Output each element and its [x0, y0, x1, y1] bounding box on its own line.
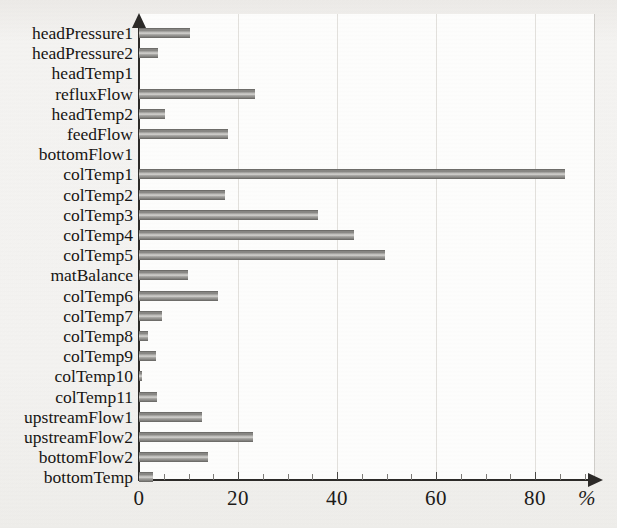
y-label-headPressure1: headPressure1 — [0, 25, 133, 43]
bar-colTemp1 — [139, 169, 565, 179]
y-label-bottomFlow2: bottomFlow2 — [0, 449, 133, 467]
bar-colTemp10 — [139, 371, 142, 381]
y-label-colTemp10: colTemp10 — [0, 368, 133, 386]
y-label-bottomTemp: bottomTemp — [0, 469, 133, 487]
y-label-colTemp3: colTemp3 — [0, 207, 133, 225]
bar-upstreamFlow1 — [139, 412, 202, 422]
tick-minor-85 — [560, 474, 561, 480]
tick-minor-70 — [486, 474, 487, 480]
tick-minor-50 — [387, 474, 388, 480]
tick-minor-25 — [263, 474, 264, 480]
bar-colTemp3 — [139, 210, 318, 220]
bar-refluxFlow — [139, 89, 255, 99]
tick-minor-55 — [411, 474, 412, 480]
x-tick-label-40: 40 — [307, 486, 367, 511]
y-label-headTemp1: headTemp1 — [0, 65, 133, 83]
y-label-headPressure2: headPressure2 — [0, 45, 133, 63]
bar-colTemp7 — [139, 311, 162, 321]
tick-major-60 — [436, 472, 437, 480]
tick-minor-65 — [461, 474, 462, 480]
y-label-upstreamFlow2: upstreamFlow2 — [0, 429, 133, 447]
x-tick-label-60: 60 — [406, 486, 466, 511]
tick-major-80 — [535, 472, 536, 480]
bar-headTemp2 — [139, 109, 165, 119]
y-label-colTemp5: colTemp5 — [0, 247, 133, 265]
y-label-colTemp9: colTemp9 — [0, 348, 133, 366]
bar-colTemp4 — [139, 230, 354, 240]
y-label-colTemp6: colTemp6 — [0, 288, 133, 306]
x-axis-arrow-icon — [588, 473, 603, 487]
bar-feedFlow — [139, 129, 228, 139]
bar-headPressure2 — [139, 48, 158, 58]
y-label-colTemp4: colTemp4 — [0, 227, 133, 245]
gridline-40 — [337, 14, 338, 480]
x-axis-line — [139, 479, 591, 481]
tick-minor-15 — [213, 474, 214, 480]
y-label-colTemp11: colTemp11 — [0, 389, 133, 407]
plot-right-edge — [594, 14, 595, 480]
y-label-feedFlow: feedFlow — [0, 126, 133, 144]
tick-minor-45 — [362, 474, 363, 480]
bar-headPressure1 — [139, 28, 190, 38]
bar-colTemp8 — [139, 331, 148, 341]
bar-colTemp2 — [139, 190, 225, 200]
x-axis-unit-label: % — [578, 486, 596, 511]
x-tick-label-0: 0 — [109, 486, 169, 511]
bar-matBalance — [139, 270, 188, 280]
y-axis-arrow-icon — [132, 13, 146, 28]
bar-colTemp6 — [139, 291, 218, 301]
y-label-colTemp1: colTemp1 — [0, 166, 133, 184]
tick-minor-35 — [312, 474, 313, 480]
bar-colTemp9 — [139, 351, 156, 361]
bar-colTemp5 — [139, 250, 385, 260]
plot-area — [139, 14, 595, 480]
gridline-60 — [436, 14, 437, 480]
y-label-colTemp7: colTemp7 — [0, 308, 133, 326]
tick-minor-90 — [585, 474, 586, 480]
y-label-refluxFlow: refluxFlow — [0, 86, 133, 104]
y-label-bottomFlow1: bottomFlow1 — [0, 146, 133, 164]
tick-minor-30 — [288, 474, 289, 480]
x-tick-label-20: 20 — [208, 486, 268, 511]
y-label-colTemp8: colTemp8 — [0, 328, 133, 346]
bar-upstreamFlow2 — [139, 432, 253, 442]
y-label-colTemp2: colTemp2 — [0, 187, 133, 205]
y-label-upstreamFlow1: upstreamFlow1 — [0, 409, 133, 427]
bar-colTemp11 — [139, 392, 157, 402]
tick-major-20 — [238, 472, 239, 480]
bar-bottomTemp — [139, 472, 153, 482]
x-tick-label-80: 80 — [505, 486, 565, 511]
gridline-20 — [238, 14, 239, 480]
y-label-matBalance: matBalance — [0, 267, 133, 285]
gridline-80 — [535, 14, 536, 480]
bar-bottomFlow2 — [139, 452, 208, 462]
y-label-headTemp2: headTemp2 — [0, 106, 133, 124]
tick-major-40 — [337, 472, 338, 480]
tick-minor-10 — [189, 474, 190, 480]
tick-minor-5 — [164, 474, 165, 480]
horizontal-bar-chart: 020406080 % headPressure1headPressure2he… — [0, 0, 617, 528]
tick-minor-75 — [510, 474, 511, 480]
